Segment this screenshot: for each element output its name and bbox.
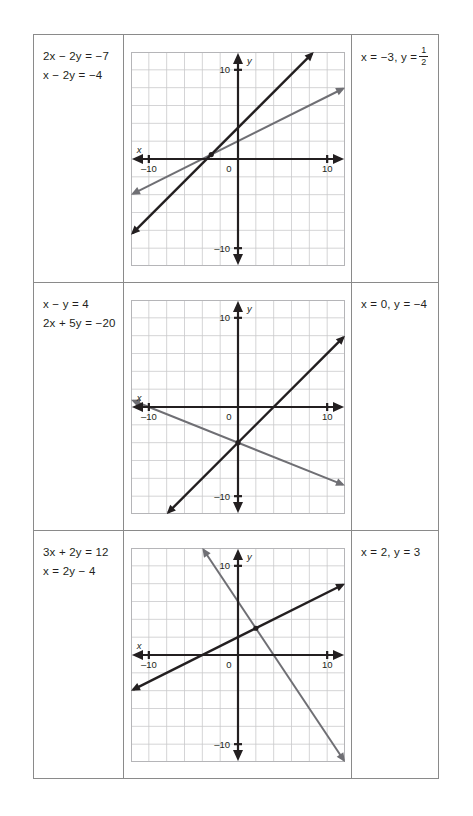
svg-text:0: 0 [226, 411, 231, 422]
answer-line: x = 0, y = −4 [361, 295, 438, 314]
svg-text:y: y [246, 551, 253, 562]
svg-text:–10: –10 [214, 738, 230, 749]
equation-line: x − y = 4 [43, 295, 123, 314]
coordinate-plot: 10–10–10100yx [131, 52, 345, 266]
answer-cell: x = −3, y = 1 2 [352, 35, 438, 282]
coordinate-plot: 10–10–10100yx [131, 548, 345, 762]
svg-text:–10: –10 [140, 411, 156, 422]
svg-text:y: y [246, 303, 253, 314]
fraction-numerator: 1 [419, 46, 428, 57]
answer-line: x = −3, y = 1 2 [361, 47, 438, 68]
svg-text:x: x [135, 640, 142, 651]
svg-text:10: 10 [219, 560, 230, 571]
graph-cell: 10–10–10100yx [124, 283, 352, 530]
svg-text:y: y [246, 55, 253, 66]
answer-cell: x = 0, y = −4 [352, 283, 438, 530]
fraction-denominator: 2 [419, 57, 428, 67]
equations-cell: 2x − 2y = −7 x − 2y = −4 [34, 35, 124, 282]
svg-text:–10: –10 [214, 242, 230, 253]
svg-text:0: 0 [226, 659, 231, 670]
equation-line: x = 2y − 4 [43, 562, 123, 581]
svg-text:–10: –10 [140, 163, 156, 174]
table-row: x − y = 4 2x + 5y = −20 10–10–10100yx x … [34, 283, 438, 531]
equation-line: 2x + 5y = −20 [43, 314, 123, 333]
svg-text:–10: –10 [140, 659, 156, 670]
equation-line: 2x − 2y = −7 [43, 47, 123, 66]
answer-text: x = 0, y = −4 [361, 295, 427, 314]
equations-cell: 3x + 2y = 12 x = 2y − 4 [34, 531, 124, 778]
svg-text:10: 10 [321, 659, 332, 670]
table-row: 2x − 2y = −7 x − 2y = −4 10–10–10100yx x… [34, 35, 438, 283]
svg-text:10: 10 [321, 163, 332, 174]
graph-cell: 10–10–10100yx [124, 35, 352, 282]
table-row: 3x + 2y = 12 x = 2y − 4 10–10–10100yx x … [34, 531, 438, 778]
coordinate-plot: 10–10–10100yx [131, 300, 345, 514]
svg-text:10: 10 [219, 312, 230, 323]
equations-cell: x − y = 4 2x + 5y = −20 [34, 283, 124, 530]
worksheet-table: 2x − 2y = −7 x − 2y = −4 10–10–10100yx x… [33, 34, 439, 779]
svg-text:x: x [135, 144, 142, 155]
answer-cell: x = 2, y = 3 [352, 531, 438, 778]
answer-text: x = 2, y = 3 [361, 543, 420, 562]
answer-line: x = 2, y = 3 [361, 543, 438, 562]
svg-text:10: 10 [321, 411, 332, 422]
svg-text:x: x [135, 392, 142, 403]
svg-text:–10: –10 [214, 490, 230, 501]
svg-text:0: 0 [226, 163, 231, 174]
answer-text: x = −3, y = [361, 48, 417, 67]
svg-text:10: 10 [219, 64, 230, 75]
graph-cell: 10–10–10100yx [124, 531, 352, 778]
equation-line: x − 2y = −4 [43, 66, 123, 85]
fraction-one-half: 1 2 [419, 46, 428, 67]
equation-line: 3x + 2y = 12 [43, 543, 123, 562]
